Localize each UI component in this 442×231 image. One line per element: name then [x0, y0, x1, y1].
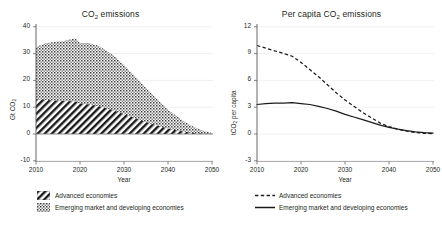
legend-item-emerging-market-right: Emerging market and developing economies	[255, 203, 408, 212]
dashed-line-swatch-icon	[255, 191, 275, 200]
panel-co2-emissions: CO2 emissions Gt CO2 40 30 20 10 0 -10 2…	[0, 0, 221, 231]
y-tick-marks-right	[254, 27, 257, 161]
legend-label-emerging-market-left: Emerging market and developing economies	[55, 204, 184, 211]
x-tick-marks-right	[257, 162, 433, 165]
legend-label-advanced-economies-right: Advanced economies	[279, 192, 341, 199]
hatch-diagonal-swatch-icon	[37, 191, 50, 200]
solid-line-swatch-icon	[255, 203, 275, 212]
legend-item-advanced-economies-left: Advanced economies	[37, 191, 184, 200]
legend-left: Advanced economies Emerging market and d…	[37, 191, 184, 215]
legend-item-advanced-economies-right: Advanced economies	[255, 191, 408, 200]
legend-label-advanced-economies-left: Advanced economies	[55, 192, 117, 199]
legend-right: Advanced economies Emerging market and d…	[255, 191, 408, 215]
legend-label-emerging-market-right: Emerging market and developing economies	[279, 204, 408, 211]
legend-item-emerging-market-left: Emerging market and developing economies	[37, 203, 184, 212]
gridlines-right	[257, 27, 434, 161]
stipple-dots-swatch-icon	[37, 203, 50, 212]
panel-per-capita-co2-emissions: Per capita CO2 emissions tCO2 per capita…	[221, 0, 442, 231]
x-tick-marks-left	[36, 162, 212, 165]
figure-co2-emissions-panels: CO2 emissions Gt CO2 40 30 20 10 0 -10 2…	[0, 0, 442, 231]
line-advanced-economies-right	[257, 46, 433, 134]
